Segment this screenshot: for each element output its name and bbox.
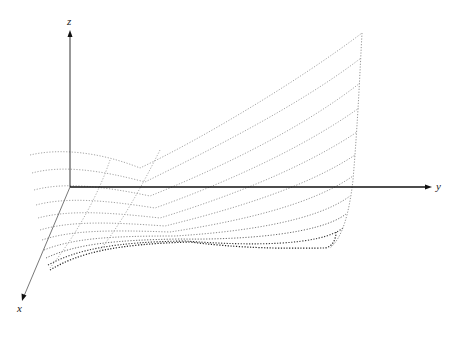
z-axis-label: z [67, 15, 71, 27]
surface-curve [42, 176, 353, 240]
y-axis-arrow-icon [425, 185, 432, 190]
surface-curve [38, 132, 357, 218]
surface-edge [330, 33, 362, 248]
surface-plot [0, 0, 463, 339]
y-axis-label: y [436, 180, 441, 192]
surface-curves [30, 33, 362, 270]
axes [22, 30, 433, 301]
x-axis-label: x [17, 302, 22, 314]
surface-curve [36, 108, 359, 208]
surface-curve [48, 228, 343, 265]
x-axis-arrow-icon [22, 294, 27, 302]
surface-curve [40, 155, 355, 230]
x-axis [24, 187, 70, 296]
surface-curve [32, 58, 361, 182]
surface-curve [46, 214, 346, 258]
surface-curve [50, 232, 336, 270]
surface-crosscurve [100, 150, 160, 250]
surface-curve [30, 33, 362, 168]
z-axis-arrow-icon [68, 30, 73, 37]
surface-curve [34, 83, 360, 196]
